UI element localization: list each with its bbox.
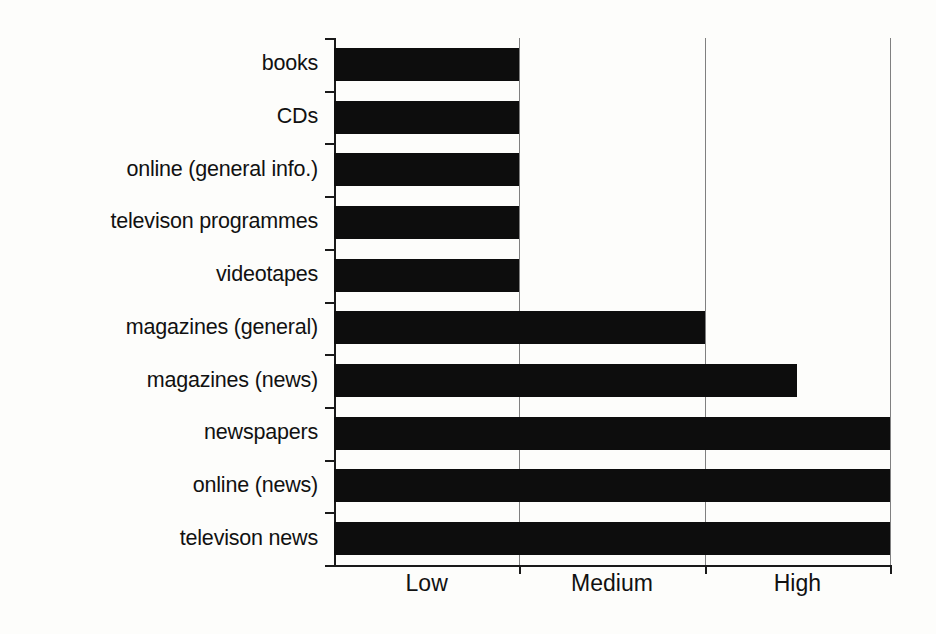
value-axis-label-high: High xyxy=(774,572,821,595)
bar-chart: booksCDsonline (general info.)televison … xyxy=(0,0,936,634)
y-axis-tick xyxy=(325,512,334,514)
category-label: videotapes xyxy=(0,264,326,286)
category-axis: booksCDsonline (general info.)televison … xyxy=(0,38,326,565)
bar xyxy=(334,522,890,555)
y-axis-tick xyxy=(325,354,334,356)
bar xyxy=(334,101,519,134)
category-label: magazines (news) xyxy=(0,370,326,392)
bar xyxy=(334,311,705,344)
value-axis-labels: LowMediumHigh xyxy=(334,572,890,612)
category-label: online (news) xyxy=(0,475,326,497)
bar xyxy=(334,259,519,292)
y-axis-tick xyxy=(325,143,334,145)
y-axis-tick xyxy=(325,407,334,409)
bar xyxy=(334,206,519,239)
value-axis-label-low: Low xyxy=(406,572,448,595)
category-label: magazines (general) xyxy=(0,317,326,339)
category-label: televison programmes xyxy=(0,211,326,233)
category-label: newspapers xyxy=(0,422,326,444)
x-axis-spine xyxy=(334,565,890,567)
bar xyxy=(334,364,797,397)
category-label: televison news xyxy=(0,528,326,550)
y-axis-tick xyxy=(325,249,334,251)
bar xyxy=(334,417,890,450)
bar xyxy=(334,469,890,502)
bar xyxy=(334,48,519,81)
y-axis-tick xyxy=(325,38,334,40)
y-axis-tick xyxy=(325,302,334,304)
category-label: books xyxy=(0,53,326,75)
category-label: CDs xyxy=(0,106,326,128)
y-axis-tick xyxy=(325,565,334,567)
category-label: online (general info.) xyxy=(0,159,326,181)
y-axis-tick xyxy=(325,460,334,462)
y-axis-tick xyxy=(325,196,334,198)
plot-area xyxy=(334,38,890,565)
bar xyxy=(334,153,519,186)
value-axis-label-medium: Medium xyxy=(571,572,653,595)
x-axis-tick xyxy=(890,565,892,574)
gridline-high xyxy=(890,38,891,565)
y-axis-tick xyxy=(325,91,334,93)
